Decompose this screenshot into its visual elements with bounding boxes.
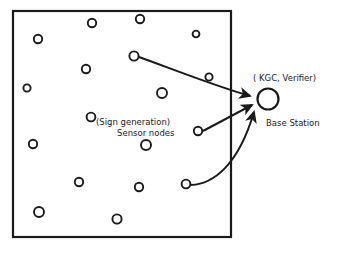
network-diagram: ( KGC, Verifier) Base Station (Sign gene… [0,0,341,254]
sensor-node [157,88,167,98]
sensor-node [135,183,143,191]
sensor-node [141,140,151,150]
sensor-node [193,31,200,38]
sensor-nodes-label: Sensor nodes [117,128,174,138]
sensor-node [34,35,42,43]
sensor-node [23,84,30,91]
signature-arrow [139,57,250,96]
signature-arrow [191,112,254,185]
sensor-node [87,113,96,122]
sensor-node [82,65,90,73]
base-station-group [258,89,279,110]
sign-generation-label: (Sign generation) [96,117,170,127]
sensor-node [75,178,83,186]
signing-sensor-node [129,51,138,60]
base-station-label: Base Station [266,118,320,128]
sensor-node [29,140,37,148]
sensor-node [205,73,212,80]
signing-sensor-node [194,127,202,135]
kgc-verifier-label: ( KGC, Verifier) [253,73,316,83]
sensor-node [34,207,44,217]
base-station-node [258,89,279,110]
signature-arrow [203,105,252,131]
sensor-node [112,214,121,223]
sensor-node [88,19,96,27]
signing-sensor-node [182,180,191,189]
sensor-node [136,15,144,23]
